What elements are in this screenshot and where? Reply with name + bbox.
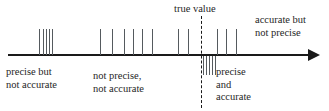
tick-mark <box>112 29 113 55</box>
label-not-precise-not-accurate-line2: not accurate <box>93 83 144 96</box>
tick-mark <box>39 29 40 55</box>
accuracy-precision-diagram: true value accurate but not precise prec… <box>0 0 329 111</box>
tick-mark <box>46 29 47 55</box>
label-precise-and-accurate: precise and accurate <box>216 66 251 104</box>
label-true-value-text: true value <box>174 3 216 14</box>
tick-mark <box>236 29 237 55</box>
label-precise-but-not-accurate-line2: not accurate <box>6 79 57 92</box>
label-precise-but-not-accurate-line1: precise but <box>6 66 57 79</box>
tick-mark <box>206 56 207 75</box>
tick-mark <box>124 29 125 55</box>
tick-mark <box>209 56 210 75</box>
tick-mark <box>188 29 189 55</box>
label-precise-and-accurate-line1: precise <box>216 66 251 79</box>
tick-mark <box>49 29 50 55</box>
label-precise-and-accurate-line3: accurate <box>216 91 251 104</box>
tick-mark <box>142 29 143 55</box>
true-value-dashed-line <box>201 16 202 108</box>
axis-arrow-icon <box>308 49 320 61</box>
tick-mark <box>212 56 213 75</box>
tick-mark <box>217 29 218 55</box>
label-precise-and-accurate-line2: and <box>216 79 251 92</box>
label-accurate-but-not-precise: accurate but not precise <box>255 14 306 39</box>
tick-mark <box>178 29 179 55</box>
tick-mark <box>52 29 53 55</box>
label-precise-but-not-accurate: precise but not accurate <box>6 66 57 91</box>
tick-mark <box>226 29 227 55</box>
label-accurate-but-not-precise-line2: not precise <box>255 27 306 40</box>
label-not-precise-not-accurate-line1: not precise, <box>93 70 144 83</box>
label-accurate-but-not-precise-line1: accurate but <box>255 14 306 27</box>
tick-mark <box>133 29 134 55</box>
label-true-value: true value <box>174 3 216 16</box>
tick-mark <box>203 56 204 75</box>
tick-mark <box>43 29 44 55</box>
label-not-precise-not-accurate: not precise, not accurate <box>93 70 144 95</box>
axis-line <box>8 54 310 56</box>
tick-mark <box>100 29 101 55</box>
tick-mark <box>152 29 153 55</box>
